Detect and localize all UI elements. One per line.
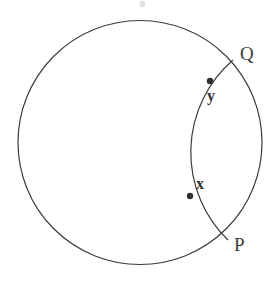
point-marker-y [207, 78, 213, 84]
geometry-figure: Q P y x [0, 0, 280, 289]
point-marker-x [187, 193, 193, 199]
point-label-x: x [196, 176, 204, 192]
point-label-q: Q [240, 44, 254, 63]
outer-circle [18, 21, 262, 265]
point-label-y: y [207, 88, 215, 104]
point-label-p: P [234, 235, 245, 254]
